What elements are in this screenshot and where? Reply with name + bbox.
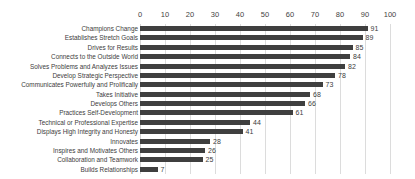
bar (140, 35, 363, 40)
bar-value-label: 44 (253, 118, 261, 127)
bar-row: Develops Others66 (0, 99, 415, 108)
bar (140, 92, 310, 97)
bar (140, 148, 205, 153)
bar (140, 26, 368, 31)
bar-track: 66 (140, 99, 390, 108)
bar-value-label: 78 (338, 71, 346, 80)
bar-track: 25 (140, 155, 390, 164)
bar-track: 85 (140, 43, 390, 52)
bar-row: Champions Change91 (0, 24, 415, 33)
bar-track: 84 (140, 52, 390, 61)
bar-row: Develop Strategic Perspective78 (0, 71, 415, 80)
bar-track: 89 (140, 33, 390, 42)
bar-value-label: 91 (371, 24, 379, 33)
x-axis-tick-80: 80 (336, 10, 344, 20)
bar-value-label: 25 (206, 155, 214, 164)
bar-value-label: 73 (326, 80, 334, 89)
bar (140, 54, 350, 59)
bar-row: Innovates28 (0, 137, 415, 146)
bar-track: 44 (140, 118, 390, 127)
x-axis-tick-100: 100 (384, 10, 397, 20)
x-axis-tick-0: 0 (138, 10, 142, 20)
x-axis-tick-70: 70 (311, 10, 319, 20)
x-axis-tick-90: 90 (361, 10, 369, 20)
bar (140, 129, 243, 134)
bar-track: 26 (140, 146, 390, 155)
bar (140, 45, 353, 50)
category-label: Develops Others (90, 99, 138, 108)
bar (140, 64, 345, 69)
bar (140, 139, 210, 144)
bar-row: Communicates Powerfully and Prolifically… (0, 80, 415, 89)
x-axis-tick-40: 40 (236, 10, 244, 20)
bar-value-label: 7 (161, 165, 165, 174)
bar-track: 91 (140, 24, 390, 33)
category-label: Develop Strategic Perspective (52, 71, 138, 80)
bar-row: Connects to the Outside World84 (0, 52, 415, 61)
bar-chart: 0102030405060708090100 Champions Change9… (0, 0, 415, 179)
bar-track: 28 (140, 137, 390, 146)
bar-value-label: 66 (308, 99, 316, 108)
bar-track: 68 (140, 90, 390, 99)
bar (140, 120, 250, 125)
x-axis-tick-labels: 0102030405060708090100 (140, 10, 390, 22)
bar-row: Technical or Professional Expertise44 (0, 118, 415, 127)
category-label: Collaboration and Teamwork (57, 155, 138, 164)
bar-value-label: 82 (348, 62, 356, 71)
bar-value-label: 28 (213, 137, 221, 146)
category-label: Drives for Results (88, 43, 138, 52)
x-axis-tick-10: 10 (161, 10, 169, 20)
bar-row: Builds Relationships7 (0, 165, 415, 174)
bar-value-label: 89 (366, 33, 374, 42)
x-axis-tick-20: 20 (186, 10, 194, 20)
category-label: Communicates Powerfully and Prolifically (21, 80, 138, 89)
category-label: Inspires and Motivates Others (53, 146, 138, 155)
bar (140, 82, 323, 87)
bar-row: Collaboration and Teamwork25 (0, 155, 415, 164)
bar-value-label: 68 (313, 90, 321, 99)
category-label: Establishes Stretch Goals (65, 33, 138, 42)
bar-track: 7 (140, 165, 390, 174)
bar-row: Solves Problems and Analyzes Issues82 (0, 62, 415, 71)
bar-value-label: 41 (246, 127, 254, 136)
bar-track: 78 (140, 71, 390, 80)
bar (140, 167, 158, 172)
category-label: Innovates (110, 137, 138, 146)
bar-row: Establishes Stretch Goals89 (0, 33, 415, 42)
category-label: Practices Self-Development (59, 108, 138, 117)
category-label: Displays High Integrity and Honesty (37, 127, 138, 136)
x-axis-tick-60: 60 (286, 10, 294, 20)
category-label: Takes Initiative (96, 90, 138, 99)
bar (140, 110, 293, 115)
x-axis-tick-30: 30 (211, 10, 219, 20)
category-label: Champions Change (82, 24, 139, 33)
bar (140, 157, 203, 162)
bar (140, 73, 335, 78)
category-label: Connects to the Outside World (51, 52, 138, 61)
category-label: Builds Relationships (80, 165, 138, 174)
bar-row: Drives for Results85 (0, 43, 415, 52)
category-label: Solves Problems and Analyzes Issues (30, 62, 138, 71)
bar-row: Practices Self-Development61 (0, 108, 415, 117)
bar-track: 73 (140, 80, 390, 89)
bar-value-label: 26 (208, 146, 216, 155)
chart-plot-area: Champions Change91Establishes Stretch Go… (0, 24, 415, 174)
bar-row: Takes Initiative68 (0, 90, 415, 99)
bar-value-label: 85 (356, 43, 364, 52)
bar-track: 41 (140, 127, 390, 136)
bar-value-label: 84 (353, 52, 361, 61)
bar (140, 101, 305, 106)
bar-value-label: 61 (296, 108, 304, 117)
x-axis-tick-50: 50 (261, 10, 269, 20)
bar-track: 82 (140, 62, 390, 71)
bar-track: 61 (140, 108, 390, 117)
category-label: Technical or Professional Expertise (39, 118, 138, 127)
bar-row: Inspires and Motivates Others26 (0, 146, 415, 155)
bar-row: Displays High Integrity and Honesty41 (0, 127, 415, 136)
